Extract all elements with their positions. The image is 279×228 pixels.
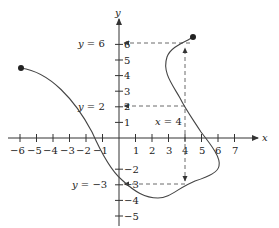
- function-graph: x y −6 −5 −4 −3 −2 −1 1 2 3 4 5 6 7: [0, 0, 279, 228]
- svg-text:7: 7: [232, 145, 238, 156]
- svg-text:−2: −2: [76, 145, 91, 156]
- y-axis-label: y: [114, 7, 121, 18]
- svg-text:3: 3: [124, 86, 130, 97]
- svg-text:−5: −5: [27, 145, 42, 156]
- function-curve: [21, 37, 219, 198]
- y-tick-labels: 6 5 4 3 2 1 −2 −3 −4 −5: [124, 39, 139, 222]
- right-endpoint-dot: [190, 34, 196, 40]
- svg-text:−6: −6: [10, 145, 25, 156]
- svg-text:−4: −4: [124, 195, 139, 206]
- label-x4: x = 4: [155, 116, 182, 127]
- svg-text:4: 4: [124, 70, 130, 81]
- x-tick-labels: −6 −5 −4 −3 −2 −1 1 2 3 4 5 6 7: [10, 145, 238, 156]
- svg-text:−4: −4: [43, 145, 58, 156]
- left-endpoint-dot: [18, 65, 24, 71]
- svg-text:5: 5: [199, 145, 205, 156]
- svg-text:1: 1: [133, 145, 139, 156]
- svg-text:−2: −2: [124, 164, 139, 175]
- svg-text:6: 6: [124, 39, 130, 50]
- svg-text:2: 2: [149, 145, 155, 156]
- svg-text:−5: −5: [124, 211, 139, 222]
- label-y2: y = 2: [77, 101, 105, 112]
- svg-text:5: 5: [124, 55, 130, 66]
- guide-lines: [124, 43, 190, 184]
- svg-text:3: 3: [166, 145, 172, 156]
- svg-text:2: 2: [124, 101, 130, 112]
- svg-text:−3: −3: [60, 145, 75, 156]
- svg-text:1: 1: [124, 117, 130, 128]
- label-y6: y = 6: [77, 38, 105, 49]
- x-axis-label: x: [262, 132, 268, 143]
- label-ym3: y = −3: [71, 179, 107, 190]
